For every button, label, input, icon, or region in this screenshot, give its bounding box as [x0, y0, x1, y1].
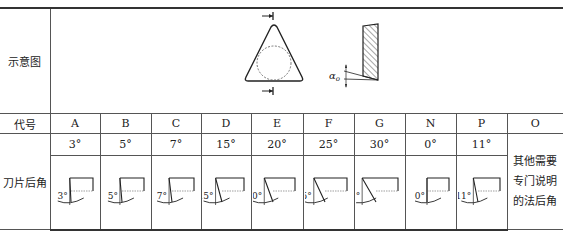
clearance-angle-icon: 7° [152, 172, 200, 212]
other-note-line-1: 其他需要 [508, 152, 563, 172]
svg-text:0°: 0° [414, 191, 424, 201]
other-note-cell: 其他需要 专门说明 的法后角 [507, 134, 563, 230]
insert-clearance-angle-table: 示意图 [0, 7, 563, 231]
angle-cell-g: 30° [354, 134, 405, 156]
angle-cell-b: 5° [100, 134, 151, 156]
alpha-o-label: αo [329, 70, 340, 83]
angle-figure-b: 5° [100, 156, 151, 230]
svg-text:25°: 25° [305, 191, 312, 201]
code-cell-g: G [354, 114, 405, 134]
angle-figure-c: 7° [151, 156, 201, 230]
clearance-angle-icon: 25° [305, 172, 353, 212]
angle-value-row: 刀片后角 3° 5° 7° 15° 20° 25° 30° 0° 11° 其他需… [0, 134, 563, 156]
clearance-angle-icon: 5° [102, 172, 150, 212]
svg-text:20°: 20° [253, 191, 262, 201]
angle-figure-row: 3° 5° 7° 15° 20° 25° 30° 0° 11° [0, 156, 563, 230]
code-cell-b: B [100, 114, 151, 134]
clearance-angle-icon: 15° [202, 172, 250, 212]
angle-cell-d: 15° [201, 134, 251, 156]
svg-text:7°: 7° [157, 191, 167, 201]
code-cell-p: P [456, 114, 507, 134]
code-cell-d: D [201, 114, 251, 134]
angle-figure-p: 11° [456, 156, 507, 230]
other-note-line-3: 的法后角 [508, 192, 563, 212]
clearance-angle-icon: 11° [458, 172, 506, 212]
angle-cell-c: 7° [151, 134, 201, 156]
diagram-row: 示意图 [0, 8, 563, 114]
code-cell-o: O [507, 114, 563, 134]
angle-figure-f: 25° [303, 156, 354, 230]
code-cell-f: F [303, 114, 354, 134]
svg-text:30°: 30° [356, 191, 360, 201]
code-cell-e: E [251, 114, 303, 134]
row-label-code: 代号 [0, 114, 50, 134]
clearance-angle-icon: 30° [356, 172, 404, 212]
clearance-angle-icon: 20° [253, 172, 301, 212]
angle-cell-n: 0° [405, 134, 456, 156]
angle-figure-d: 15° [201, 156, 251, 230]
other-note-line-2: 专门说明 [508, 172, 563, 192]
clearance-angle-icon: 3° [51, 172, 99, 212]
row-label-diagram: 示意图 [0, 8, 50, 114]
svg-text:3°: 3° [58, 191, 68, 201]
code-cell-a: A [50, 114, 100, 134]
svg-text:11°: 11° [458, 191, 471, 201]
code-cell-c: C [151, 114, 201, 134]
angle-cell-a: 3° [50, 134, 100, 156]
svg-text:5°: 5° [107, 191, 117, 201]
diagram-cell: αo [50, 8, 563, 114]
code-row: 代号 A B C D E F G N P O [0, 114, 563, 134]
angle-cell-e: 20° [251, 134, 303, 156]
angle-figure-e: 20° [251, 156, 303, 230]
angle-figure-n: 0° [405, 156, 456, 230]
angle-cell-f: 25° [303, 134, 354, 156]
angle-figure-g: 30° [354, 156, 405, 230]
table-title [0, 0, 563, 7]
angle-cell-p: 11° [456, 134, 507, 156]
triangle-insert-icon: αo [207, 11, 407, 111]
clearance-angle-icon: 0° [407, 172, 455, 212]
code-cell-n: N [405, 114, 456, 134]
angle-figure-a: 3° [50, 156, 100, 230]
svg-text:15°: 15° [202, 191, 214, 201]
row-label-angle: 刀片后角 [0, 134, 50, 230]
